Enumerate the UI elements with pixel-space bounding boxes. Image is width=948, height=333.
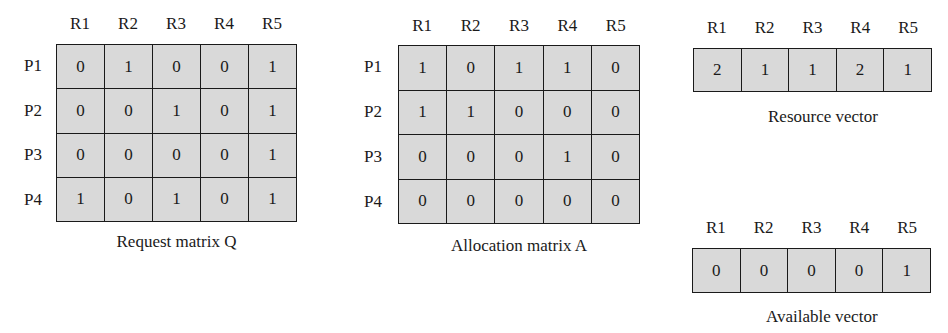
vector-cell: 1: [884, 49, 932, 92]
matrix-cell: 0: [105, 89, 153, 133]
matrix-cell: 0: [105, 177, 153, 221]
matrix-cell: 1: [399, 46, 447, 91]
column-header: R3: [789, 18, 837, 38]
matrix-cell: 0: [399, 135, 447, 180]
column-header: R2: [104, 14, 152, 34]
column-header: R1: [398, 16, 446, 36]
matrix-cell: 0: [447, 179, 495, 224]
matrix-cell: 0: [543, 179, 591, 224]
column-header: R1: [56, 14, 104, 34]
matrix-row: 1 1 0 0 0: [399, 90, 640, 135]
allocation-matrix-caption: Allocation matrix A: [398, 236, 640, 256]
resource-vector-caption: Resource vector: [768, 107, 878, 127]
matrix-cell: 0: [201, 45, 249, 89]
matrix-cell: 0: [201, 89, 249, 133]
row-header: P3: [24, 133, 42, 178]
matrix-cell: 0: [201, 133, 249, 177]
matrix-cell: 0: [495, 179, 543, 224]
column-header: R5: [248, 14, 296, 34]
matrix-row: 1 0 1 1 0: [399, 46, 640, 91]
matrix-cell: 1: [105, 45, 153, 89]
matrix-cell: 1: [543, 46, 591, 91]
column-header: R2: [740, 218, 788, 238]
vector-cell: 0: [740, 249, 788, 293]
vector-cell: 1: [741, 49, 789, 92]
vector-row: 0 0 0 0 1: [693, 249, 931, 293]
matrix-cell: 1: [153, 177, 201, 221]
available-vector-grid: 0 0 0 0 1: [692, 248, 931, 293]
resource-vector-column-headers: R1 R2 R3 R4 R5: [693, 18, 932, 38]
vector-cell: 2: [694, 49, 742, 92]
matrix-cell: 0: [57, 45, 105, 89]
matrix-cell: 1: [543, 135, 591, 180]
matrix-cell: 1: [399, 90, 447, 135]
column-header: R4: [836, 18, 884, 38]
matrix-row: 0 0 0 0 1: [57, 133, 297, 177]
column-header: R2: [741, 18, 789, 38]
allocation-matrix-row-headers: P1 P2 P3 P4: [364, 45, 382, 224]
column-header: R5: [883, 218, 931, 238]
vector-cell: 0: [693, 249, 741, 293]
matrix-cell: 0: [591, 90, 639, 135]
matrix-cell: 1: [447, 90, 495, 135]
row-header: P2: [24, 89, 42, 134]
row-header: P1: [364, 45, 382, 90]
matrix-cell: 0: [153, 45, 201, 89]
column-header: R1: [692, 218, 740, 238]
column-header: R5: [592, 16, 640, 36]
matrix-cell: 0: [447, 46, 495, 91]
matrix-cell: 0: [399, 179, 447, 224]
matrix-cell: 0: [591, 179, 639, 224]
matrix-cell: 1: [495, 46, 543, 91]
matrix-row: 1 0 1 0 1: [57, 177, 297, 221]
available-vector-caption: Available vector: [766, 307, 878, 327]
matrix-cell: 0: [201, 177, 249, 221]
matrix-cell: 1: [249, 45, 297, 89]
column-header: R1: [693, 18, 741, 38]
matrix-cell: 0: [57, 89, 105, 133]
matrix-cell: 0: [447, 135, 495, 180]
row-header: P3: [364, 135, 382, 180]
matrix-row: 0 0 0 1 0: [399, 135, 640, 180]
request-matrix-column-headers: R1 R2 R3 R4 R5: [56, 14, 296, 34]
row-header: P4: [364, 179, 382, 224]
column-header: R4: [200, 14, 248, 34]
matrix-cell: 1: [249, 177, 297, 221]
vector-cell: 0: [788, 249, 836, 293]
resource-vector-grid: 2 1 1 2 1: [693, 48, 932, 92]
matrix-cell: 1: [57, 177, 105, 221]
column-header: R3: [495, 16, 543, 36]
allocation-matrix-column-headers: R1 R2 R3 R4 R5: [398, 16, 640, 36]
matrix-cell: 0: [591, 135, 639, 180]
row-header: P1: [24, 44, 42, 89]
matrix-cell: 0: [105, 133, 153, 177]
request-matrix-caption: Request matrix Q: [56, 232, 297, 252]
column-header: R2: [446, 16, 494, 36]
matrix-cell: 1: [249, 133, 297, 177]
column-header: R3: [788, 218, 836, 238]
request-matrix-row-headers: P1 P2 P3 P4: [24, 44, 42, 222]
vector-cell: 0: [835, 249, 883, 293]
matrix-row: 0 0 0 0 0: [399, 179, 640, 224]
vector-cell: 2: [836, 49, 884, 92]
matrix-cell: 0: [495, 90, 543, 135]
matrix-cell: 0: [153, 133, 201, 177]
vector-row: 2 1 1 2 1: [694, 49, 932, 92]
column-header: R4: [543, 16, 591, 36]
matrix-cell: 0: [57, 133, 105, 177]
matrix-cell: 0: [591, 46, 639, 91]
column-header: R4: [835, 218, 883, 238]
vector-cell: 1: [789, 49, 837, 92]
matrix-cell: 0: [495, 135, 543, 180]
matrix-cell: 1: [249, 89, 297, 133]
row-header: P2: [364, 90, 382, 135]
matrix-row: 0 0 1 0 1: [57, 89, 297, 133]
allocation-matrix-grid: 1 0 1 1 0 1 1 0 0 0 0 0 0 1 0 0 0 0 0 0: [398, 45, 640, 224]
row-header: P4: [24, 178, 42, 223]
available-vector-column-headers: R1 R2 R3 R4 R5: [692, 218, 931, 238]
column-header: R5: [884, 18, 932, 38]
vector-cell: 1: [883, 249, 931, 293]
request-matrix-grid: 0 1 0 0 1 0 0 1 0 1 0 0 0 0 1 1 0 1 0 1: [56, 44, 297, 222]
matrix-cell: 1: [153, 89, 201, 133]
matrix-cell: 0: [543, 90, 591, 135]
